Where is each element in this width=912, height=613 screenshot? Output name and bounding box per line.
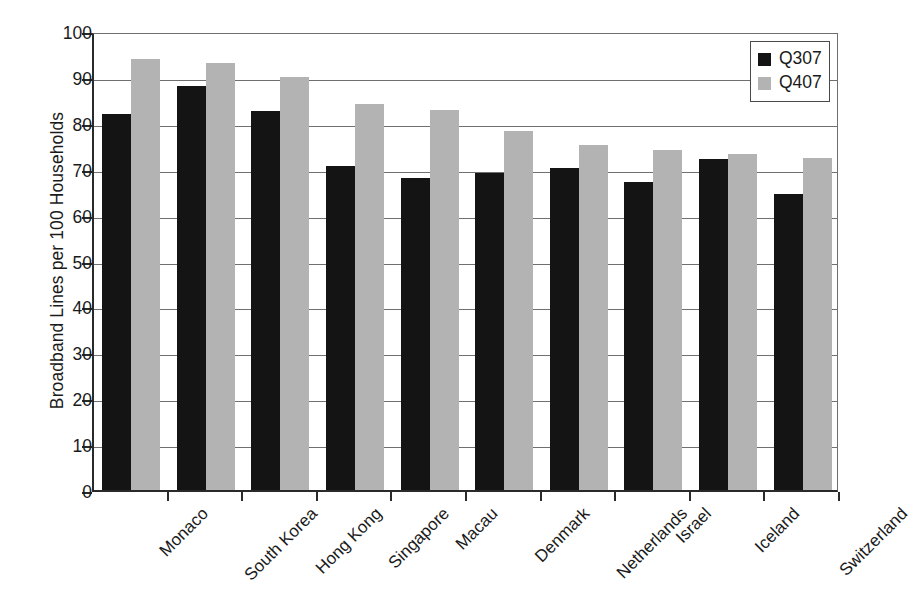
x-tick-mark: [763, 492, 765, 501]
bar-q307: [251, 111, 280, 490]
x-tick-mark: [241, 492, 243, 501]
bar-q307: [102, 114, 131, 490]
bar-q407: [504, 131, 533, 490]
bar-q307: [550, 168, 579, 490]
x-axis-label: Netherlands: [613, 504, 692, 583]
y-tick-label: 50: [46, 252, 92, 273]
bar-q307: [774, 194, 803, 490]
y-tick-label: 70: [46, 160, 92, 181]
bar-group: [392, 34, 467, 490]
bar-q307: [475, 173, 504, 490]
x-axis-label: Denmark: [531, 504, 594, 567]
x-tick-mark: [689, 492, 691, 501]
y-tick-label: 20: [46, 390, 92, 411]
x-tick-mark: [167, 492, 169, 501]
bar-group: [243, 34, 318, 490]
bar-group: [691, 34, 766, 490]
x-axis-label: Hong Kong: [312, 504, 386, 578]
x-tick-mark: [390, 492, 392, 501]
bar-q407: [355, 104, 384, 490]
y-tick-label: 100: [46, 23, 92, 44]
bar-q407: [280, 77, 309, 490]
x-axis-label: Monaco: [156, 504, 213, 561]
bar-group: [169, 34, 244, 490]
bar-q407: [206, 63, 235, 490]
legend-item-q307: Q307: [758, 47, 822, 71]
y-tick-label: 40: [46, 298, 92, 319]
bar-q407: [131, 59, 160, 490]
legend-label-q407: Q407: [779, 74, 822, 92]
x-tick-mark: [540, 492, 542, 501]
y-tick-label: 10: [46, 436, 92, 457]
bar-group: [542, 34, 617, 490]
legend-swatch-q307-icon: [758, 53, 771, 66]
x-tick-mark: [614, 492, 616, 501]
bar-group: [765, 34, 840, 490]
legend-item-q407: Q407: [758, 71, 822, 95]
x-tick-mark: [838, 492, 840, 501]
bar-q307: [401, 178, 430, 490]
bar-group: [318, 34, 393, 490]
bar-q407: [579, 145, 608, 490]
bar-q407: [728, 154, 757, 490]
bar-group: [616, 34, 691, 490]
x-tick-mark: [465, 492, 467, 501]
bar-q307: [326, 166, 355, 491]
bar-q407: [653, 150, 682, 490]
x-axis-label: Singapore: [385, 504, 454, 573]
plot-area: [92, 33, 838, 492]
y-tick-label: 60: [46, 206, 92, 227]
x-axis-label: South Korea: [241, 504, 322, 585]
legend-swatch-q407-icon: [758, 77, 771, 90]
x-axis-label: Switzerland: [835, 504, 911, 580]
bar-q407: [803, 158, 832, 490]
x-axis-label: Iceland: [751, 504, 804, 557]
y-tick-label: 30: [46, 344, 92, 365]
x-tick-mark: [316, 492, 318, 501]
legend-label-q307: Q307: [779, 50, 822, 68]
bar-q407: [430, 110, 459, 490]
bar-q307: [177, 86, 206, 490]
legend: Q307 Q407: [750, 41, 830, 102]
bar-q307: [624, 182, 653, 490]
bar-group: [94, 34, 169, 490]
bar-group: [467, 34, 542, 490]
bars-layer: [94, 34, 837, 490]
y-axis-ticks: 0102030405060708090100: [0, 0, 92, 613]
y-tick-label: 90: [46, 68, 92, 89]
y-tick-label: 80: [46, 114, 92, 135]
x-axis-label: Macau: [452, 504, 502, 554]
y-tick-label: 0: [46, 482, 92, 503]
bar-q307: [699, 159, 728, 490]
